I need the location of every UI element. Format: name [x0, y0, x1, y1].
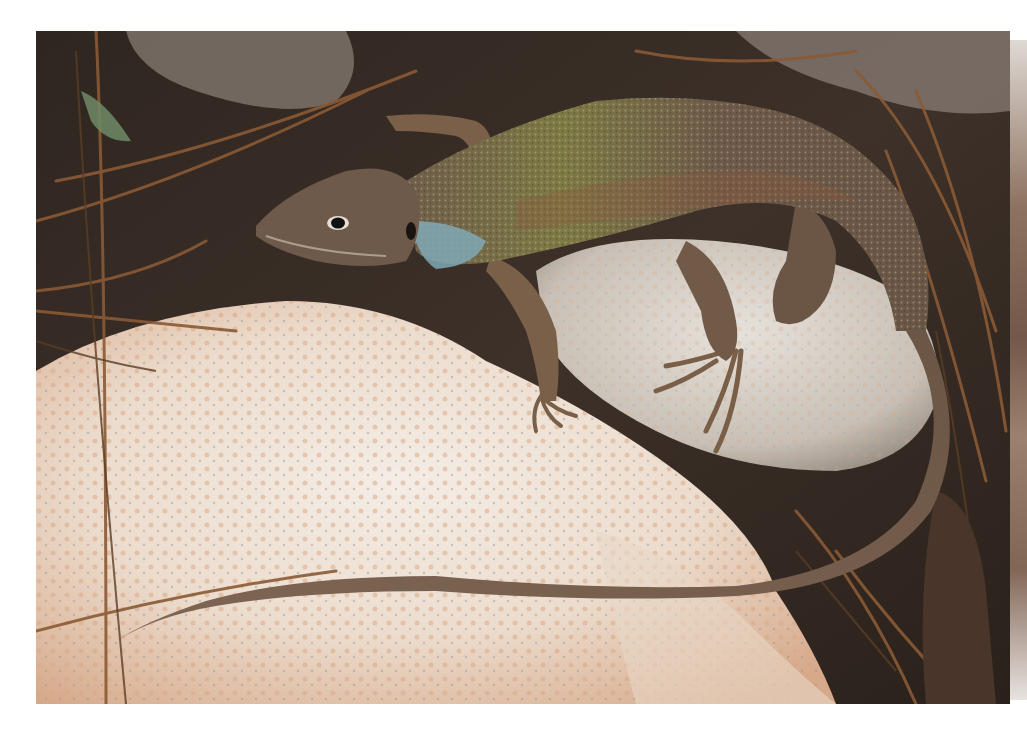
photo-rendering [36, 31, 1010, 704]
adjacent-page-edge [1010, 40, 1027, 700]
lizard-photo [36, 31, 1010, 704]
